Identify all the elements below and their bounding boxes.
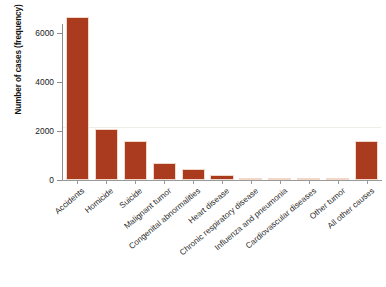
- x-tick-mark: [309, 181, 310, 184]
- x-tick-mark: [280, 181, 281, 184]
- x-tick-mark: [135, 181, 136, 184]
- bar-chart-figure: Number of cases (frequency) 020004000600…: [0, 0, 386, 287]
- x-tick-mark: [338, 181, 339, 184]
- x-tick-mark: [77, 181, 78, 184]
- y-tick-mark: [57, 180, 62, 181]
- x-tick-mark: [164, 181, 165, 184]
- x-tick-mark: [193, 181, 194, 184]
- bar: [66, 17, 89, 180]
- x-tick-mark: [222, 181, 223, 184]
- x-tick-mark: [367, 181, 368, 184]
- x-tick-mark: [251, 181, 252, 184]
- x-tick-mark: [106, 181, 107, 184]
